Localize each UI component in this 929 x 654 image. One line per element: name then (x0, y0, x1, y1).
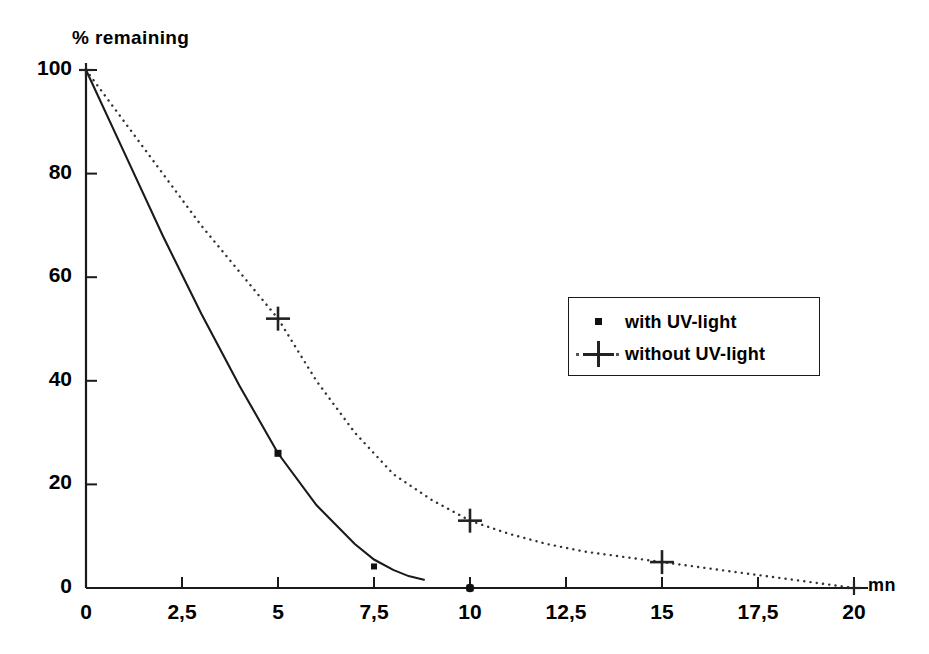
x-tick-label: 10 (430, 600, 510, 624)
x-tick-label: 15 (622, 600, 702, 624)
series-line-0 (86, 70, 424, 580)
y-tick-label: 60 (4, 263, 72, 287)
square-marker (371, 563, 377, 569)
legend-label-without-uv-light: without UV-light (625, 344, 765, 365)
chart-figure: % remaining mn 02,557,51012,51517,520020… (0, 0, 929, 654)
y-tick-label: 20 (4, 470, 72, 494)
legend-entry-with-uv-light: with UV-light (569, 305, 819, 339)
x-tick-label: 20 (814, 600, 894, 624)
x-tick-label: 12,5 (526, 600, 606, 624)
x-tick-label: 5 (238, 600, 318, 624)
dot-marker (466, 584, 474, 592)
square-marker-icon (569, 305, 625, 339)
x-tick-label: 2,5 (142, 600, 222, 624)
y-tick-label: 100 (4, 56, 72, 80)
x-tick-label: 7,5 (334, 600, 414, 624)
y-tick-label: 0 (4, 574, 72, 598)
x-tick-label: 0 (46, 600, 126, 624)
square-marker (275, 450, 282, 457)
x-tick-label: 17,5 (718, 600, 798, 624)
y-tick-label: 40 (4, 367, 72, 391)
legend: with UV-light without UV-light (568, 297, 820, 376)
plus-marker-icon (569, 337, 625, 371)
y-tick-label: 80 (4, 160, 72, 184)
legend-label-with-uv-light: with UV-light (625, 312, 737, 333)
legend-entry-without-uv-light: without UV-light (569, 337, 819, 371)
